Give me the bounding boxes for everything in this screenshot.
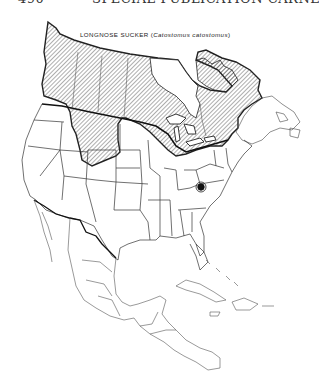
map-title-scientific: Catostomus catostomus [153, 31, 228, 38]
range-area [42, 22, 262, 166]
map-title-common: LONGNOSE SUCKER ( [80, 31, 153, 38]
disjunct-population-marker [198, 184, 204, 190]
map-title: LONGNOSE SUCKER (Catostomus catostomus) [80, 31, 230, 38]
caribbean [176, 260, 274, 316]
range-map [0, 0, 319, 386]
map-title-close: ) [228, 31, 230, 38]
us-mexico-border [34, 200, 116, 258]
